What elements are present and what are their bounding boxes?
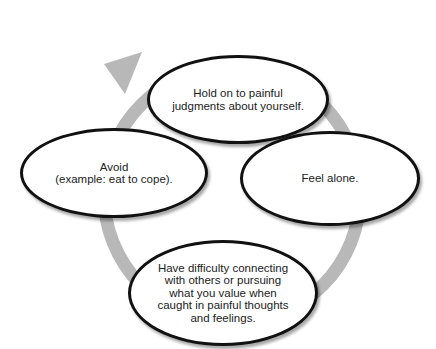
node-feel-alone: Feel alone. — [240, 131, 420, 226]
node-avoid: Avoid (example: eat to cope). — [20, 128, 208, 218]
node-hold-on-to-judgments: Hold on to painful judgments about yours… — [147, 55, 329, 144]
node-difficulty-connecting: Have difficulty connecting with others o… — [128, 240, 318, 346]
arrowhead-icon — [104, 52, 142, 94]
node-label: Avoid (example: eat to cope). — [55, 161, 173, 186]
node-label: Have difficulty connecting with others o… — [157, 262, 288, 325]
node-label: Hold on to painful judgments about yours… — [172, 87, 304, 112]
node-label: Feel alone. — [302, 172, 359, 185]
cycle-diagram: Hold on to painful judgments about yours… — [0, 0, 436, 349]
